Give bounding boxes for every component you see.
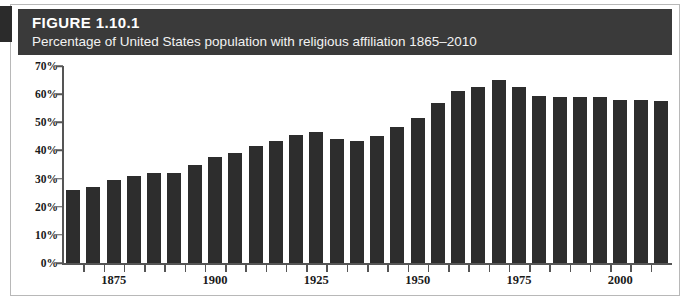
bar [228, 153, 242, 263]
bar [634, 100, 648, 263]
bar [431, 103, 445, 263]
figure-title: Percentage of United States population w… [32, 32, 672, 52]
bar [613, 100, 627, 263]
x-tick-mark [185, 264, 187, 272]
bar [471, 87, 485, 263]
x-tick-mark [610, 264, 612, 272]
bar [553, 97, 567, 263]
bar [593, 97, 607, 263]
x-tick-mark [367, 264, 369, 272]
bar [167, 173, 181, 263]
bar [309, 132, 323, 263]
y-tick-mark [56, 150, 63, 152]
bar [147, 173, 161, 263]
plot-area: 0%10%20%30%40%50%60%70% 1875190019251950… [18, 60, 672, 292]
x-tick-mark [104, 264, 106, 272]
x-tick-mark [428, 264, 430, 272]
x-tick-mark [408, 264, 410, 272]
bar [654, 101, 668, 263]
x-tick-mark [529, 264, 531, 272]
x-tick-mark [205, 264, 207, 272]
x-tick-label: 1975 [507, 273, 532, 288]
bar [350, 141, 364, 263]
bar-series [63, 66, 671, 263]
x-tick-mark [306, 264, 308, 272]
bar [330, 139, 344, 263]
y-tick-mark [56, 93, 63, 95]
bar [411, 118, 425, 263]
bar [492, 80, 506, 263]
x-tick-mark [651, 264, 653, 272]
y-tick-label: 50% [35, 116, 58, 128]
x-tick-mark [245, 264, 247, 272]
bar [249, 146, 263, 263]
x-tick-mark [144, 264, 146, 272]
x-tick-mark [468, 264, 470, 272]
x-tick-mark [266, 264, 268, 272]
x-tick-mark [286, 264, 288, 272]
x-tick-label: 1900 [203, 273, 228, 288]
figure-number-label: FIGURE 1.10.1 [32, 13, 672, 32]
bar [127, 176, 141, 263]
x-tick-mark [326, 264, 328, 272]
y-tick-label: 40% [35, 144, 58, 156]
y-tick-mark [56, 262, 63, 264]
x-tick-mark [509, 264, 511, 272]
x-tick-label: 2000 [608, 273, 633, 288]
y-tick-mark [56, 234, 63, 236]
y-tick-mark [56, 65, 63, 67]
x-tick-label: 1925 [304, 273, 329, 288]
bar [573, 97, 587, 263]
x-tick-mark [124, 264, 126, 272]
figure-left-tab [0, 6, 12, 42]
x-tick-mark [83, 264, 85, 272]
y-tick-mark [56, 178, 63, 180]
x-tick-mark [164, 264, 166, 272]
bar [390, 127, 404, 263]
x-tick-label: 1875 [101, 273, 126, 288]
y-tick-label: 30% [35, 173, 58, 185]
x-tick-mark [347, 264, 349, 272]
bar [188, 165, 202, 264]
x-tick-mark [630, 264, 632, 272]
x-tick-marks [63, 264, 671, 273]
x-tick-label: 1950 [405, 273, 430, 288]
bar [86, 187, 100, 263]
bar [107, 180, 121, 263]
bar [532, 96, 546, 263]
x-tick-mark [549, 264, 551, 272]
bar [289, 135, 303, 263]
x-tick-mark [448, 264, 450, 272]
x-tick-mark [387, 264, 389, 272]
bar [269, 141, 283, 263]
x-tick-mark [590, 264, 592, 272]
x-tick-mark [489, 264, 491, 272]
x-axis-labels: 187519001925195019752000 [63, 273, 671, 293]
y-tick-mark [56, 122, 63, 124]
figure-header: FIGURE 1.10.1 Percentage of United State… [18, 9, 672, 55]
bar [512, 87, 526, 263]
y-tick-label: 70% [35, 60, 58, 72]
bar [451, 91, 465, 263]
y-tick-label: 20% [35, 201, 58, 213]
y-tick-mark [56, 206, 63, 208]
y-axis-labels: 0%10%20%30%40%50%60%70% [18, 60, 62, 263]
x-tick-mark [225, 264, 227, 272]
bar [370, 136, 384, 263]
y-tick-label: 10% [35, 229, 58, 241]
bar [66, 190, 80, 263]
bar [208, 157, 222, 263]
y-tick-label: 60% [35, 88, 58, 100]
x-tick-mark [570, 264, 572, 272]
figure-container: FIGURE 1.10.1 Percentage of United State… [0, 0, 691, 303]
